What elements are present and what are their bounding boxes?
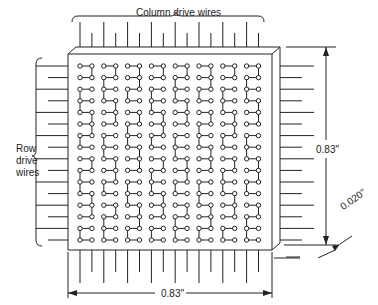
width-dimension-label: 0.83" xyxy=(159,288,186,299)
row-drive-wires-label-2: drive xyxy=(16,155,38,166)
row-drive-wires-label-3: wires xyxy=(16,167,39,178)
row-drive-wires-label-1: Row xyxy=(16,143,36,154)
height-dimension-label: 0.83" xyxy=(316,144,339,155)
column-drive-wires-label: Column drive wires xyxy=(136,7,221,18)
